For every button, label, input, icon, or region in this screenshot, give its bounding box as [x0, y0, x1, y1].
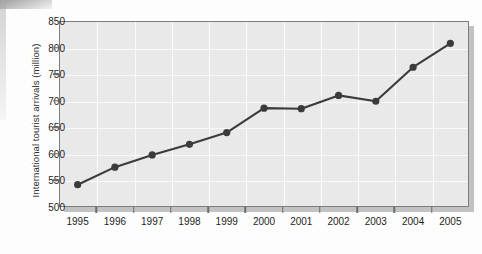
gridline-horizontal — [60, 155, 468, 156]
plot-frame-shadow-right — [469, 26, 474, 212]
gridline-vertical — [97, 22, 98, 206]
x-axis-tick-mark — [319, 207, 321, 213]
y-axis-tick-label: 550 — [25, 175, 65, 186]
gridline-vertical — [135, 22, 136, 206]
gridline-horizontal — [60, 102, 468, 103]
y-axis-tick-label: 750 — [25, 69, 65, 80]
gridline-vertical — [321, 22, 322, 206]
y-axis-tick-mark — [53, 100, 59, 102]
gridline-vertical — [433, 22, 434, 206]
plot-frame-shadow-bottom — [64, 207, 474, 212]
x-axis-tick-mark — [282, 207, 284, 213]
x-axis-tick-label: 2005 — [427, 216, 473, 227]
x-axis-tick-mark — [207, 207, 209, 213]
gridline-vertical — [284, 22, 285, 206]
y-axis-tick-label: 850 — [25, 16, 65, 27]
gridline-vertical — [172, 22, 173, 206]
x-axis-tick-mark — [356, 207, 358, 213]
y-axis-tick-label: 700 — [25, 95, 65, 106]
y-axis-tick-mark — [53, 47, 59, 49]
plot-area — [59, 21, 469, 207]
y-axis-tick-mark — [53, 127, 59, 129]
y-axis-tick-mark — [53, 73, 59, 75]
chart-figure: International tourist arrivals (million)… — [0, 0, 482, 254]
gridline-horizontal — [60, 181, 468, 182]
gridline-vertical — [395, 22, 396, 206]
y-axis-tick-label: 650 — [25, 122, 65, 133]
y-axis-tick-mark — [53, 180, 59, 182]
x-axis-tick-mark — [431, 207, 433, 213]
page-shadow-top — [0, 0, 52, 9]
y-axis-tick-label: 600 — [25, 148, 65, 159]
x-axis-tick-mark — [133, 207, 135, 213]
gridline-vertical — [358, 22, 359, 206]
gridline-horizontal — [60, 49, 468, 50]
y-axis-tick-mark — [53, 153, 59, 155]
y-axis-tick-label: 800 — [25, 42, 65, 53]
gridline-horizontal — [60, 128, 468, 129]
page-shadow-left — [0, 0, 6, 120]
y-axis-tick-label: 500 — [25, 202, 65, 213]
gridlines — [60, 22, 468, 206]
x-axis-tick-mark — [96, 207, 98, 213]
x-axis-tick-mark — [245, 207, 247, 213]
gridline-vertical — [209, 22, 210, 206]
x-axis-tick-mark — [170, 207, 172, 213]
x-axis-tick-mark — [394, 207, 396, 213]
gridline-horizontal — [60, 75, 468, 76]
gridline-vertical — [246, 22, 247, 206]
